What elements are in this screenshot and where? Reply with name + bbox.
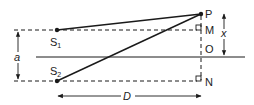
point-s2 — [55, 79, 59, 83]
point-s1 — [55, 28, 59, 32]
label-d: D — [123, 90, 131, 102]
ray-s1-p — [57, 14, 201, 30]
ray-s2-p — [57, 14, 201, 81]
label-a: a — [14, 51, 20, 63]
interference-diagram: a x D P M O N S1 S2 — [0, 0, 254, 105]
label-n: N — [205, 76, 213, 88]
right-angle-n — [196, 76, 201, 81]
label-m: M — [205, 24, 214, 36]
point-p — [199, 12, 203, 16]
label-s1: S1 — [50, 36, 61, 49]
label-p: P — [205, 8, 212, 20]
label-x: x — [220, 27, 227, 39]
label-o: O — [205, 43, 214, 55]
right-angle-m — [196, 25, 201, 30]
label-s2: S2 — [50, 65, 61, 78]
